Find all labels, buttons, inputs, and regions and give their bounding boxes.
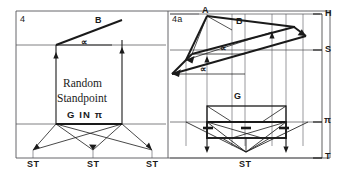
right-fan-5	[222, 138, 246, 152]
right-st-fan	[186, 122, 308, 152]
panel-label-right: 4a	[172, 15, 183, 24]
left-drop-verticals	[33, 150, 152, 158]
right-G-diag-3	[207, 122, 262, 138]
left-st-arrowheads	[33, 143, 152, 150]
right-slope-label-B: B	[236, 17, 243, 26]
edge-label-horizon-H: H	[325, 9, 332, 18]
right-G-diag-2	[262, 106, 286, 122]
left-st-arrowhead-2	[89, 144, 97, 150]
left-slope-B	[56, 20, 122, 45]
left-angle-label-alpha: ∝	[81, 38, 87, 47]
left-fan-a2	[56, 124, 93, 150]
left-caption-line-3: G IN π	[67, 110, 103, 120]
left-fan-b1	[33, 124, 122, 150]
right-G-diag-4	[232, 122, 286, 138]
right-angle-label-alpha-2: ∝	[200, 65, 206, 74]
right-edge-ticks	[313, 14, 322, 158]
right-upper-chord	[207, 16, 295, 27]
left-arrowhead-right	[119, 47, 124, 54]
right-thin-chord-1	[192, 16, 207, 54]
right-apex-label-A: A	[202, 6, 209, 15]
right-standpoint-label: ST	[239, 160, 251, 169]
left-standpoint-label-3: ST	[146, 160, 158, 169]
figure-linework	[0, 0, 337, 176]
right-down-arrowhead-1	[204, 146, 209, 153]
edge-label-ground-T: T	[325, 152, 331, 161]
right-G-diag-1	[207, 106, 232, 122]
right-G-block	[207, 106, 286, 138]
right-down-arrowhead-2	[283, 146, 288, 153]
right-fan-2	[207, 122, 246, 152]
left-caption-line-2: Standpoint	[57, 93, 107, 105]
edge-label-picture-plane-pi: π	[324, 116, 331, 125]
right-proj-arrowhead-1	[204, 56, 209, 62]
left-vertical-arrowheads	[53, 47, 124, 59]
figure-root: 4 4a B ∝ Random Standpoint G IN π ST ST …	[0, 0, 337, 176]
right-angle-label-alpha-1: ∝	[220, 44, 226, 53]
left-caption-line-1: Random	[63, 78, 102, 90]
left-slope-line	[56, 20, 122, 45]
panel-label-left: 4	[20, 15, 25, 24]
right-down-arrows	[204, 138, 288, 153]
right-G-lower-rect	[207, 122, 286, 138]
left-standpoint-label-2: ST	[87, 160, 99, 169]
left-arrowhead-left	[53, 52, 58, 59]
left-standpoint-label-1: ST	[27, 160, 39, 169]
right-fan-6	[246, 138, 270, 152]
right-fan-3	[246, 122, 286, 152]
right-panel-guides	[170, 14, 322, 158]
left-slope-label-B: B	[95, 16, 102, 25]
edge-label-station-S: S	[325, 45, 331, 54]
right-ground-label-G: G	[234, 92, 241, 101]
right-fan-1	[186, 122, 246, 152]
right-fan-4	[246, 122, 308, 152]
